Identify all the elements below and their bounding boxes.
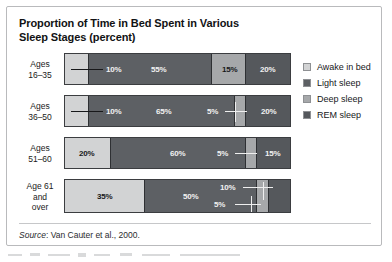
leader-line-deep [225, 111, 247, 112]
legend-item-rem-sleep[interactable]: REM sleep [303, 107, 387, 123]
legend-label: Awake in bed [317, 59, 371, 75]
leader-line-awake [71, 111, 103, 112]
row-label-age-61-and-over: Age 61 and over [19, 181, 61, 213]
bar-value-rem: 15% [265, 149, 280, 159]
legend-item-deep-sleep[interactable]: Deep sleep [303, 91, 387, 107]
bar-value-light: 55% [151, 65, 166, 75]
bar-value-deep: 15% [222, 65, 237, 75]
stacked-bar-ages-36-50[interactable]: 10% 65% 5% 20% [64, 95, 291, 127]
source-label: Source [19, 230, 46, 240]
bar-value-deep: 5% [207, 107, 218, 117]
scan-artifact [142, 254, 170, 256]
bar-value-light: 60% [170, 149, 185, 159]
legend-swatch-icon [303, 63, 311, 71]
legend-swatch-icon [303, 95, 311, 103]
legend-item-awake-in-bed[interactable]: Awake in bed [303, 59, 387, 75]
leader-tick-deep [251, 196, 252, 212]
scan-artifact [120, 253, 132, 256]
legend-label: REM sleep [317, 107, 361, 123]
bar-segment-light [144, 180, 257, 212]
leader-tick-rem [263, 182, 264, 200]
stacked-bar-ages-16-35[interactable]: 10% 55% 15% 20% [64, 53, 291, 85]
scan-artifact [94, 254, 110, 256]
bar-value-light: 50% [183, 192, 198, 202]
bar-value-awake: 10% [106, 65, 121, 75]
scan-artifact-strip [0, 250, 392, 262]
leader-tick-deep [235, 102, 236, 122]
legend-label: Deep sleep [317, 91, 363, 107]
row-label-ages-16-35: Ages 16–35 [19, 59, 61, 80]
source-text: : Van Cauter et al., 2000. [46, 230, 140, 240]
stacked-bar-age-61-and-over[interactable]: 35% 50% 10% 5% [64, 179, 291, 213]
bar-value-rem: 20% [260, 65, 275, 75]
table-row: Ages 36–50 10% 65% 5% 20% [19, 93, 291, 133]
bar-segment-rem [268, 180, 291, 212]
stacked-bar-ages-51-60[interactable]: 20% 60% 5% 15% [64, 137, 291, 169]
scan-artifact [78, 253, 86, 257]
table-row: Age 61 and over 35% 50% 10% 5% [19, 177, 291, 219]
row-label-ages-36-50: Ages 36–50 [19, 101, 61, 122]
leader-line-deep [235, 153, 257, 154]
scan-artifact [30, 253, 40, 256]
scan-artifact [180, 254, 240, 256]
bar-value-awake: 20% [79, 149, 94, 159]
chart-title-line-2: Sleep Stages (percent) [19, 30, 319, 44]
leader-line-awake [71, 69, 103, 70]
bar-value-rem: 20% [261, 107, 276, 117]
chart-title-line-1: Proportion of Time in Bed Spent in Vario… [19, 16, 319, 30]
legend-swatch-icon [303, 79, 311, 87]
table-row: Ages 16–35 10% 55% 15% 20% [19, 51, 291, 91]
bar-value-awake: 10% [106, 107, 121, 117]
chart-plot-area: Ages 16–35 10% 55% 15% 20% Ages 36–50 [19, 51, 291, 219]
legend-swatch-icon [303, 111, 311, 119]
figure-frame: Proportion of Time in Bed Spent in Vario… [6, 6, 382, 246]
bar-value-deep: 5% [217, 149, 228, 159]
legend-label: Light sleep [317, 75, 361, 91]
scan-artifact [8, 254, 22, 256]
chart-legend: Awake in bed Light sleep Deep sleep REM … [303, 59, 387, 123]
leader-line-deep [235, 204, 261, 205]
bar-segment-deep [256, 180, 267, 212]
scan-artifact [48, 254, 70, 256]
bar-value-awake: 35% [97, 192, 112, 202]
bar-value-light: 65% [156, 107, 171, 117]
source-note: Source: Van Cauter et al., 2000. [19, 229, 140, 241]
page-title: Proportion of Time in Bed Spent in Vario… [19, 16, 319, 44]
bar-value-rem: 10% [220, 183, 235, 193]
table-row: Ages 51–60 20% 60% 5% 15% [19, 135, 291, 175]
row-label-ages-51-60: Ages 51–60 [19, 143, 61, 164]
leader-line-rem [243, 187, 273, 188]
source-divider [19, 223, 371, 224]
legend-item-light-sleep[interactable]: Light sleep [303, 75, 387, 91]
bar-value-deep: 5% [214, 200, 225, 210]
